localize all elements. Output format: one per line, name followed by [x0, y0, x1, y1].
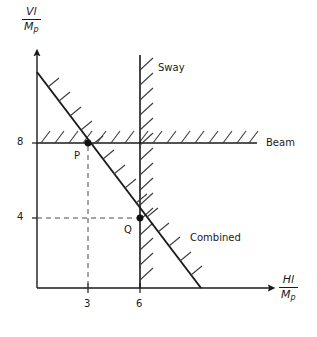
beam-hatching [41, 131, 258, 143]
beam-label: Beam [266, 137, 295, 148]
point-marker-p [85, 140, 92, 147]
y-axis-label: Vl Mp [22, 6, 41, 34]
y-axis-label-numerator: Vl [22, 6, 41, 20]
x-axis-label-denominator: Mp [279, 288, 298, 302]
combined-mechanism-line [37, 72, 201, 288]
y-tick-label-4: 4 [17, 211, 23, 222]
point-marker-q [137, 215, 144, 222]
y-axis-label-denominator: Mp [22, 20, 41, 34]
y-tick-label-8: 8 [17, 136, 23, 147]
x-tick-label-6: 6 [136, 298, 142, 309]
figure-canvas: Vl Mp Hl Mp 8 4 3 6 Sway Beam Combined P… [0, 0, 317, 337]
sway-hatching [140, 58, 153, 280]
combined-hatching [48, 78, 202, 275]
point-label-q: Q [124, 224, 132, 235]
interaction-diagram [0, 0, 317, 337]
x-axis-label-numerator: Hl [279, 274, 298, 288]
x-axis-label: Hl Mp [279, 274, 298, 302]
x-tick-label-3: 3 [84, 298, 90, 309]
combined-label: Combined [190, 232, 241, 243]
point-label-p: P [74, 150, 80, 161]
sway-label: Sway [158, 62, 185, 73]
